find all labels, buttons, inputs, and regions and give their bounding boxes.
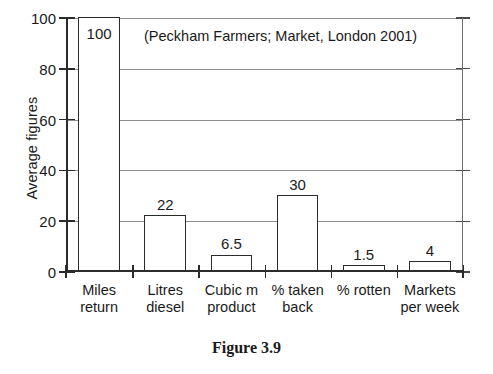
y-axis-tick-right [456, 119, 470, 120]
x-axis-category-label: Marketsper week [397, 282, 463, 316]
bar [78, 17, 120, 271]
x-axis-category-line: Litres [132, 282, 198, 299]
y-axis-tick-label: 100 [10, 11, 56, 26]
x-axis-category-line: Markets [397, 282, 463, 299]
y-axis-tick-labels: 020406080100 [10, 0, 56, 374]
x-axis-category-label: % takenback [265, 282, 331, 316]
y-axis-tick-right [456, 221, 470, 222]
chart-title: (Peckham Farmers; Market, London 2001) [144, 28, 417, 44]
figure-caption: Figure 3.9 [0, 339, 493, 357]
y-axis-tick-right [456, 17, 470, 18]
x-axis-category-label: % rotten [331, 282, 397, 299]
y-axis-tick-label: 40 [10, 163, 56, 178]
bar-value-label: 1.5 [343, 247, 385, 262]
bar [144, 215, 186, 271]
bar-value-label: 100 [78, 26, 120, 41]
bar-value-label: 6.5 [211, 236, 253, 251]
x-axis-category-line: diesel [132, 299, 198, 316]
x-axis-category-line: % rotten [331, 282, 397, 299]
plot-area: 100226.5301.54 (Peckham Farmers; Market,… [66, 18, 463, 272]
x-axis-category-line: Miles [66, 282, 132, 299]
x-axis-category-line: product [198, 299, 264, 316]
y-axis-line [66, 18, 68, 272]
figure-container: Average figures 020406080100 100226.5301… [0, 0, 493, 374]
y-axis-tick-right [456, 68, 470, 69]
gridline [66, 221, 463, 222]
bar [211, 255, 253, 272]
y-axis-tick-label: 60 [10, 112, 56, 127]
gridline [66, 18, 463, 19]
gridline [66, 120, 463, 121]
y-axis-tick-label: 20 [10, 214, 56, 229]
x-axis-category-label: Milesreturn [66, 282, 132, 316]
x-axis-category-line: return [66, 299, 132, 316]
x-axis-category-labels: MilesreturnLitresdieselCubic mproduct% t… [66, 282, 463, 330]
y-axis-tick-label: 80 [10, 61, 56, 76]
x-axis-category-line: back [265, 299, 331, 316]
bar-value-label: 4 [409, 243, 451, 258]
plot-right-border [462, 18, 464, 272]
y-axis-tick-right [456, 170, 470, 171]
x-axis-category-line: per week [397, 299, 463, 316]
bar-value-label: 30 [277, 177, 319, 192]
x-axis-category-label: Litresdiesel [132, 282, 198, 316]
x-axis-category-line: Cubic m [198, 282, 264, 299]
x-axis-line [66, 270, 463, 272]
bar [277, 195, 319, 271]
gridline [66, 69, 463, 70]
gridline [66, 170, 463, 171]
x-axis-category-line: % taken [265, 282, 331, 299]
x-axis-category-label: Cubic mproduct [198, 282, 264, 316]
bar-value-label: 22 [144, 197, 186, 212]
y-axis-tick-label: 0 [10, 265, 56, 280]
